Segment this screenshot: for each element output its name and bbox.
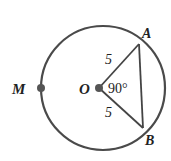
point-O-dot [95, 84, 103, 92]
length-label-OB: 5 [105, 105, 112, 120]
point-M-dot [37, 84, 45, 92]
length-label-OA: 5 [105, 52, 112, 67]
label-B: B [144, 133, 154, 148]
label-O: O [79, 81, 90, 97]
angle-label-AOB: 90° [108, 81, 128, 96]
circle-diagram: M O A B 5 5 90° [0, 0, 171, 161]
segment-AB [139, 44, 143, 128]
label-M: M [11, 81, 26, 97]
label-A: A [141, 26, 151, 41]
